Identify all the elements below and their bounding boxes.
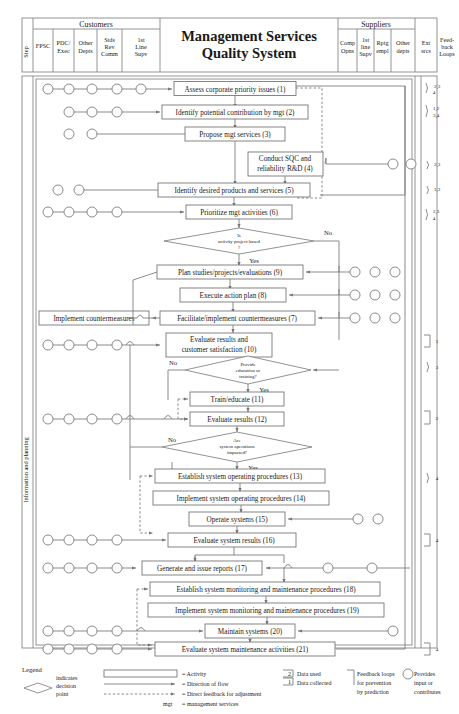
header-table: Step Customers Suppliers FPSC PDC/ Exec …: [22, 18, 456, 72]
step-9-box: Plan studies/projects/evaluations (9): [178, 269, 283, 277]
step-4-box-line1: Conduct SQC and: [259, 155, 312, 163]
svg-text:line: line: [361, 43, 371, 50]
svg-text:back: back: [441, 43, 454, 50]
flow-content: Assess corporate priority issues (1) 2,3…: [39, 82, 441, 657]
feedback-5a: 2,3: [433, 209, 440, 215]
legend-mgt-value: = management services: [182, 701, 239, 707]
feedback-bottom: 4: [436, 647, 439, 652]
col-feedback-loops: Feed-: [440, 36, 454, 43]
svg-text:Exec: Exec: [57, 47, 70, 54]
decision-2-line1: Provide: [240, 362, 255, 367]
svg-text:Opns: Opns: [341, 47, 355, 54]
legend-decision-line1: indicates: [56, 675, 78, 681]
decision-3-no: No: [168, 436, 177, 443]
legend-provides-line3: contributes: [414, 689, 441, 695]
feedback-6: 1: [436, 339, 439, 344]
side-label: Information and planning: [22, 437, 29, 503]
customers-group-label: Customers: [79, 20, 112, 29]
decision-2-no: No: [169, 359, 178, 366]
decision-1-line1: Is: [237, 233, 241, 238]
step-4-box-line2: reliability R&D (4): [257, 165, 313, 173]
svg-text:Depts: Depts: [78, 47, 93, 54]
decision-2-line3: training?: [239, 374, 256, 379]
step-5-box: Identify desired products and services (…: [174, 187, 294, 195]
step-15-box: Operate systems (15): [206, 516, 268, 524]
svg-text:Line: Line: [135, 43, 147, 50]
implement-countermeasures-box: Implement countermeasures: [53, 315, 134, 323]
col-other-depts: Other: [78, 39, 92, 46]
decision-1-yes: Yes: [249, 257, 259, 264]
legend-feedback-loops-line3: by prediction: [357, 689, 389, 695]
legend-decision-line2: decision: [56, 683, 76, 689]
decision-2-line2: education or: [236, 368, 261, 373]
svg-text:Loops: Loops: [439, 50, 455, 57]
col-comp-opns: Comp: [340, 39, 355, 46]
legend-data-used: Data used: [297, 671, 321, 677]
svg-text:Comm: Comm: [101, 50, 118, 57]
feedback-9: 4: [436, 476, 439, 481]
step-16-box: Evaluate system results (16): [193, 537, 275, 545]
col-fpsc: FPSC: [36, 42, 50, 49]
decision-1-line3: ?: [238, 245, 240, 250]
col-stds-rev-comm: Stds: [104, 36, 115, 43]
feedback-7: 3: [436, 365, 439, 370]
col-rptg-empl: Rptg: [376, 39, 388, 46]
feedback-2b: 3,4: [433, 113, 440, 119]
step-10-box-line1: Evaluate results and: [190, 336, 248, 344]
svg-text:Rev: Rev: [105, 43, 116, 50]
feedback-10: 4: [436, 538, 439, 543]
legend: Legend indicates decision point = Activi…: [22, 666, 441, 707]
step-column-label: Step: [22, 46, 29, 57]
feedback-2a: 1,2: [433, 106, 440, 112]
legend-flow: = Direction of flow: [182, 681, 229, 687]
suppliers-group-label: Suppliers: [361, 20, 390, 29]
decision-3-line3: impacted?: [227, 450, 247, 455]
step-3-box: Propose mgt services (3): [199, 131, 271, 139]
step-14-box: Implement system operating procedures (1…: [177, 495, 307, 503]
legend-feedback-loops-line2: for prevention: [357, 680, 391, 686]
step-7-box: Facilitate/implement countermeasures (7): [177, 315, 297, 323]
col-ext-srcs: Ext: [422, 39, 431, 46]
legend-data-collected: Data collected: [297, 680, 331, 686]
feedback-5b: 4: [433, 216, 436, 221]
legend-provides-line2: input or: [414, 680, 433, 686]
col-pdc-exec: PDC/: [57, 39, 71, 46]
legend-provides-line1: Provides: [414, 671, 436, 677]
step-8-box: Execute action plan (8): [200, 292, 267, 300]
svg-text:depts: depts: [396, 47, 410, 54]
legend-data-num-top: 2: [288, 671, 291, 677]
step-2-box: Identify potential contribution by mgt (…: [176, 109, 295, 117]
svg-text:srcs: srcs: [421, 47, 431, 54]
step-19-box: Implement system monitoring and maintena…: [175, 607, 360, 615]
step-13-box: Establish system operating procedures (1…: [178, 473, 303, 481]
svg-text:empl: empl: [376, 47, 389, 54]
legend-title: Legend: [22, 666, 42, 673]
decision-3-line2: system operations: [219, 444, 254, 449]
svg-text:Supv: Supv: [359, 50, 373, 57]
decision-1-no: No: [324, 229, 333, 236]
step-18-box: Establish system monitoring and maintena…: [176, 586, 356, 594]
decision-3-line1: Are: [233, 438, 240, 443]
col-1st-line-supv: 1st: [137, 36, 145, 43]
step-1-box: Assess corporate priority issues (1): [184, 86, 286, 94]
col-other-depts-supplier: Other: [396, 39, 410, 46]
legend-mgt-key: mgt: [163, 701, 173, 707]
legend-data-num-bottom: 1: [288, 679, 291, 685]
step-21-box: Evaluate system maintenance activities (…: [182, 646, 309, 654]
legend-feedback-loops-line1: Feedback loops: [357, 671, 395, 677]
step-6-box: Prioritize mgt activities (6): [200, 209, 278, 217]
step-12-box: Evaluate results (12): [207, 416, 267, 424]
decision-1-line2: activity project based: [218, 239, 260, 244]
page-title-line1: Management Services: [181, 28, 317, 44]
step-17-box: Generate and issue reports (17): [157, 565, 247, 573]
step-20-box: Maintain systems (20): [218, 628, 283, 636]
step-11-box: Train/educate (11): [211, 396, 264, 404]
legend-decision-line3: point: [56, 691, 69, 697]
legend-activity: = Activity: [182, 671, 206, 677]
feedback-8: 2: [436, 416, 439, 421]
step-10-box-line2: customer satisfaction (10): [182, 346, 257, 354]
legend-feedback: = Direct feedback for adjustment: [182, 691, 262, 697]
feedback-1b: 4: [433, 90, 436, 95]
svg-text:Supv: Supv: [135, 50, 149, 57]
col-supplier-1st-line-supv: 1st: [362, 36, 370, 43]
